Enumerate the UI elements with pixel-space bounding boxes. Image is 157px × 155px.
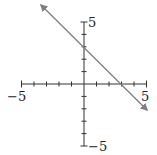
y-max-label: 5 (88, 15, 96, 30)
coordinate-plane: −5 5 5 −5 (0, 0, 157, 155)
y-min-label: −5 (88, 139, 107, 154)
x-max-label: 5 (141, 89, 149, 104)
x-min-label: −5 (7, 89, 26, 104)
